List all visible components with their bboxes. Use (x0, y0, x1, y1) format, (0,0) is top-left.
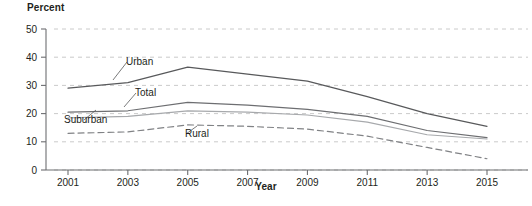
x-axis-title: Year (0, 181, 532, 192)
series-line-total (68, 102, 487, 137)
leader-line-urban (113, 62, 127, 80)
series-line-suburban (68, 111, 487, 139)
y-tick-label: 40 (26, 52, 38, 63)
line-chart-plot: 0102030405020012003200520072009201120132… (0, 0, 532, 206)
series-annotations-group: UrbanTotalSuburbanRural (64, 56, 209, 139)
y-tick-label: 50 (26, 24, 38, 35)
axes-group (41, 29, 528, 175)
y-tick-label: 0 (31, 165, 37, 176)
chart-figure: Percent 01020304050200120032005200720092… (0, 0, 532, 206)
series-label-urban: Urban (126, 56, 153, 67)
series-label-total: Total (135, 87, 156, 98)
y-tick-label: 20 (26, 108, 38, 119)
y-tick-label: 10 (26, 136, 38, 147)
series-label-rural: Rural (185, 128, 209, 139)
series-group (68, 67, 487, 159)
gridlines-group (54, 29, 528, 170)
y-tick-label: 30 (26, 80, 38, 91)
series-label-suburban: Suburban (64, 114, 107, 125)
series-line-urban (68, 67, 487, 126)
